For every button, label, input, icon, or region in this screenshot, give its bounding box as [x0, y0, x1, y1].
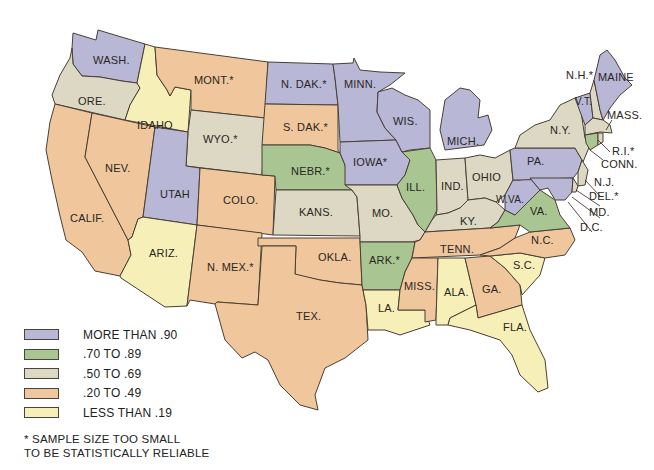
label-mo: MO.: [372, 207, 393, 219]
label-nc: N.C.: [531, 234, 554, 246]
legend-swatch: [24, 349, 59, 360]
label-wash: WASH.: [93, 54, 130, 66]
label-sdak: S. DAK.*: [283, 121, 329, 133]
label-nebr: NEBR.*: [291, 165, 331, 177]
legend-swatch: [24, 407, 59, 418]
state-pa: [510, 148, 582, 180]
label-ind: IND.: [441, 180, 464, 192]
label-ala: ALA.: [444, 286, 469, 298]
label-utah: UTAH: [160, 188, 190, 200]
legend-swatch: [24, 329, 59, 340]
label-tenn: TENN.: [440, 243, 474, 255]
legend-label: .20 TO .49: [83, 386, 141, 400]
label-okla: OKLA.: [318, 251, 351, 263]
label-ndak: N. DAK.*: [281, 78, 327, 90]
legend-label: .50 TO .69: [83, 367, 141, 381]
label-ri: R.I.*: [612, 145, 635, 157]
label-nh: N.H.*: [566, 69, 594, 81]
state-del: [572, 178, 578, 192]
label-tex: TEX.: [296, 310, 321, 322]
label-md: MD.: [589, 206, 610, 218]
footnote-line-2: TO BE STATISTICALLY RELIABLE: [24, 446, 209, 460]
label-kans: KANS.: [299, 206, 333, 218]
label-minn: MINN.: [344, 78, 376, 90]
footnote-line-1: * SAMPLE SIZE TOO SMALL: [24, 432, 209, 446]
legend-item-more-than-90: MORE THAN .90: [24, 325, 177, 345]
label-ariz: ARIZ.: [149, 247, 178, 259]
label-nj: N.J.: [594, 176, 614, 188]
label-mass: MASS.: [607, 109, 642, 121]
sample-size-footnote: * SAMPLE SIZE TOO SMALL TO BE STATISTICA…: [24, 432, 209, 460]
label-la: LA.: [378, 302, 395, 314]
legend-item-20-to-49: .20 TO .49: [24, 384, 177, 404]
label-ore: ORE.: [78, 95, 106, 107]
map-legend: MORE THAN .90 .70 TO .89 .50 TO .69 .20 …: [24, 325, 177, 423]
label-va: VA.: [530, 205, 548, 217]
legend-item-50-to-69: .50 TO .69: [24, 364, 177, 384]
label-fla: FLA.: [503, 321, 527, 333]
label-calif: CALIF.: [70, 212, 104, 224]
label-ga: GA.: [482, 283, 502, 295]
label-wyo: WYO.*: [203, 133, 238, 145]
label-colo: COLO.: [223, 194, 258, 206]
legend-label: LESS THAN .19: [83, 406, 172, 420]
label-mich: MICH.: [447, 135, 479, 147]
label-mont: MONT.*: [194, 74, 234, 86]
label-maine: MAINE: [598, 71, 634, 83]
label-ohio: OHIO: [472, 171, 501, 183]
legend-label: MORE THAN .90: [83, 328, 177, 342]
label-idaho: IDAHO: [137, 119, 173, 131]
label-miss: MISS.: [404, 280, 435, 292]
label-conn: CONN.: [601, 158, 637, 170]
label-pa: PA.: [527, 155, 545, 167]
label-nmex: N. MEX.*: [207, 261, 254, 273]
state-fla: [448, 305, 548, 392]
legend-label: .70 TO .89: [83, 347, 141, 361]
label-ark: ARK.*: [369, 254, 400, 266]
label-ill: ILL.: [406, 181, 425, 193]
label-sc: S.C.: [513, 259, 535, 271]
legend-item-70-to-89: .70 TO .89: [24, 345, 177, 365]
legend-item-less-than-19: LESS THAN .19: [24, 403, 177, 423]
label-ny: N.Y.: [550, 124, 571, 136]
label-wis: WIS.: [393, 115, 418, 127]
label-iowa: IOWA*: [353, 156, 388, 168]
state-ri: [598, 133, 603, 145]
label-dc: D.C.: [580, 221, 603, 233]
label-nev: NEV.: [105, 162, 130, 174]
label-vt: V.T.: [575, 96, 592, 107]
label-wva: W.VA.: [496, 194, 524, 205]
legend-swatch: [24, 388, 59, 399]
label-ky: KY.: [460, 215, 477, 227]
legend-swatch: [24, 368, 59, 379]
label-del: DEL.*: [589, 190, 619, 202]
